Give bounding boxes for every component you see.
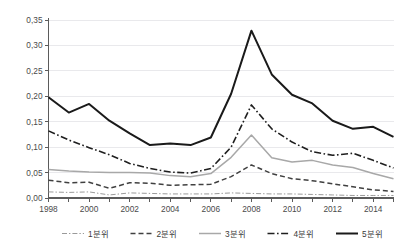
series-line-1 <box>49 192 394 196</box>
y-tick-label: 0,20 <box>26 91 43 101</box>
x-tick-label: 1998 <box>39 204 58 214</box>
x-tick-label: 2010 <box>283 204 302 214</box>
y-tick-label: 0,30 <box>26 40 43 50</box>
y-tick-label: 0,05 <box>26 168 43 178</box>
chart-container: 0,000,050,100,150,200,250,300,35 1998200… <box>0 0 401 251</box>
legend-label-2: 2분위 <box>157 229 178 239</box>
legend-label-3: 3분위 <box>225 229 246 239</box>
legend-label-4: 4분위 <box>294 229 315 239</box>
legend-label-5: 5분위 <box>362 229 383 239</box>
legend-group: 1분위2분위3분위4분위5분위 <box>62 229 383 239</box>
series-line-2 <box>49 165 394 191</box>
y-tick-label: 0,00 <box>26 193 43 203</box>
y-tick-label: 0,25 <box>26 66 43 76</box>
y-tick-label: 0,10 <box>26 142 43 152</box>
y-tick-labels-group: 0,000,050,100,150,200,250,300,35 <box>26 15 43 203</box>
cropped-title-sliver <box>0 0 401 7</box>
series-line-5 <box>49 31 394 145</box>
x-tick-label: 2008 <box>242 204 261 214</box>
legend-label-1: 1분위 <box>88 229 109 239</box>
x-tick-label: 2006 <box>202 204 221 214</box>
series-group <box>49 31 394 196</box>
x-tick-label: 2000 <box>80 204 99 214</box>
y-tick-label: 0,15 <box>26 117 43 127</box>
line-chart: 0,000,050,100,150,200,250,300,35 1998200… <box>0 0 401 251</box>
x-tick-label: 2002 <box>120 204 139 214</box>
gridlines-group <box>49 20 394 173</box>
y-tick-label: 0,35 <box>26 15 43 25</box>
x-tick-label: 2012 <box>323 204 342 214</box>
x-tick-labels-group: 199820002002200420062008201020122014 <box>39 204 383 214</box>
x-tick-label: 2014 <box>364 204 383 214</box>
x-tick-label: 2004 <box>161 204 180 214</box>
